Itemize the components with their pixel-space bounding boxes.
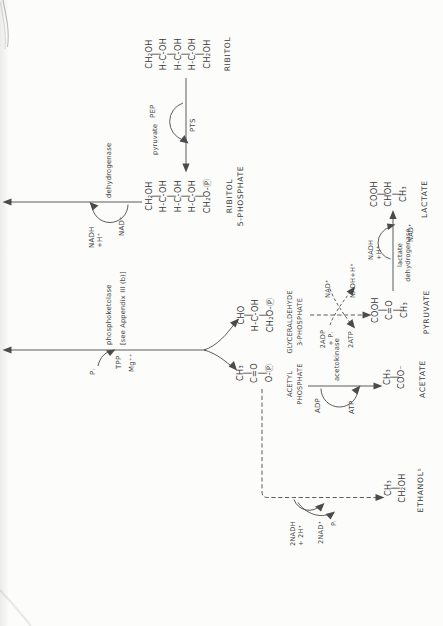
- rotated-diagram: CH₂OH | H-C-OH | H-C-OH | H-C-OH | CH₂OH…: [0, 0, 443, 626]
- lactate-label: LACTATE: [419, 169, 430, 229]
- pts-enzyme-label: PTS: [189, 118, 197, 132]
- pep-pyruvate-arc: [170, 103, 183, 140]
- ribitol-label: RIBITOL: [222, 26, 233, 82]
- appendix-note-label: [see Appendix III (b)]: [120, 271, 128, 345]
- lactate-structure: COOH | CHOH | CH₃: [371, 164, 407, 224]
- pts-pyruvate-label: pyruvate: [152, 124, 160, 155]
- atp-out-label: ATP: [348, 401, 356, 414]
- ribitol-5-phosphate-label: RIBITOL 5-PHOSPHATE: [224, 162, 246, 230]
- ribitol-5-phosphate-structure: CH₂OH | H-C-OH | H-C-OH | H-C-OH | CH₂O-…: [146, 166, 211, 226]
- ribitol-structure: CH₂OH | H-C-OH | H-C-OH | H-C-OH | CH₂OH: [146, 24, 211, 84]
- mg-label: Mg⁺⁺: [128, 353, 136, 372]
- g3p-atp-out-label: 2ATP: [348, 331, 356, 348]
- pyruvate-structure: COOH | C=O | CH₃: [372, 280, 408, 340]
- acetate-structure: CH₃ | COO⁻: [384, 347, 406, 407]
- ethanol-label: ETHANOLᵇ: [415, 456, 426, 524]
- nad-in-label: NAD⁺: [118, 216, 126, 236]
- fork-to-acetylp: [204, 350, 233, 367]
- ethanol-structure: CH₃ | CH₂OH: [385, 458, 407, 518]
- pep-label: PEP: [149, 105, 157, 118]
- adp-in-label: ADP: [314, 398, 322, 413]
- nadh-out-label: NADH +H⁺: [88, 227, 104, 248]
- acetate-label: ACETATE: [417, 349, 428, 409]
- acetokinase-label: acetokinase: [333, 338, 341, 381]
- fork-to-g3p: [204, 323, 235, 350]
- tpp-label: TPP: [115, 356, 123, 369]
- ethanol-nadh-arc: [294, 500, 321, 511]
- acetyl-phosphate-label: ACETYL PHOSPHATE: [286, 356, 305, 412]
- pyruvate-label: PYRUVATE: [421, 282, 432, 342]
- ethanol-pi-out-label: Pᵢ: [331, 520, 339, 526]
- scanned-figure-page: CH₂OH | H-C-OH | H-C-OH | H-C-OH | CH₂OH…: [0, 0, 443, 626]
- ethanol-nad-out-label: 2NAD⁺: [318, 521, 326, 544]
- ldh-nad-out-label: NAD⁺: [408, 223, 416, 242]
- g3p-nad-in-label: NAD⁺: [325, 279, 333, 298]
- glyceraldehyde-3-phosphate-label: GLYCERALDEHYDE 3-PHOSPHATE: [286, 290, 305, 354]
- phosphoketolase-label: phosphoketolase: [105, 284, 113, 345]
- dehydrogenase-label: dehydrogenase: [105, 143, 113, 198]
- g3p-nadh-out-label: NADH+H⁺: [350, 263, 358, 298]
- glyceraldehyde-3-phosphate-structure: CHO | H-C-OH | CH₂O-Ⓟ: [238, 285, 274, 345]
- acetyl-phosphate-structure: CH₃ | C=O | O-Ⓟ: [237, 343, 273, 403]
- ethanol-nadh-in-label: 2NADH + 2H⁺: [290, 521, 305, 546]
- ldh-nadh-in-label: NADH +H⁺: [368, 240, 383, 260]
- phosphate-in-label: Pᵢ: [89, 369, 97, 375]
